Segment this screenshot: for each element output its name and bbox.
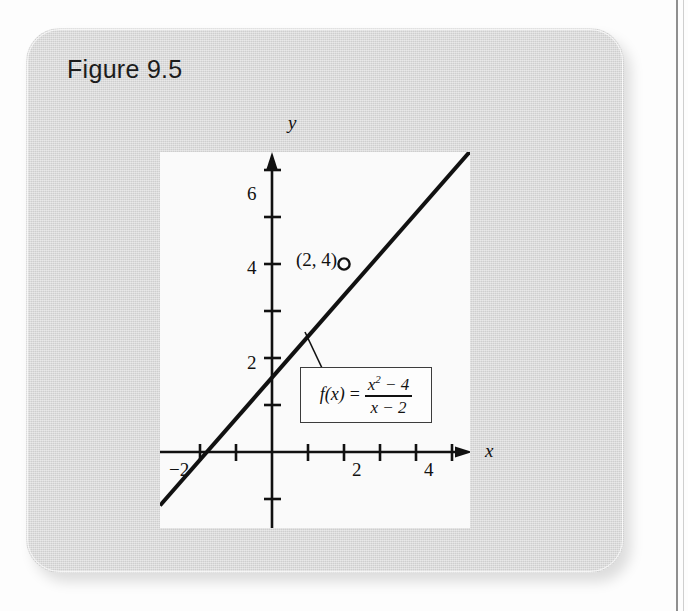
fraction-bar [365,395,413,396]
formula-expression: f(x) = x2 − 4 x − 2 [320,374,413,417]
numerator-rest: − 4 [381,374,409,393]
page-edge-rule [676,0,678,611]
y-tick-label-4: 4 [247,257,257,279]
x-tick-label-minus-2: −2 [169,459,189,481]
formula-equals-sign: = [350,384,360,405]
x-axis-label: x [485,440,493,462]
scanned-page: Figure 9.5 [0,0,688,611]
formula-numerator: x2 − 4 [365,374,413,394]
callout-leader-line [305,332,322,368]
discontinuity-point-label: (2, 4) [296,249,337,271]
page-edge-rule-secondary [683,0,684,611]
formula-left-hand-side: f(x) [320,384,345,405]
formula-callout-box: f(x) = x2 − 4 x − 2 [300,367,432,423]
x-tick-label-2: 2 [352,459,362,481]
y-axis [267,152,278,528]
x-tick-label-4: 4 [424,459,434,481]
open-circle-marker [338,258,349,269]
formula-fraction: x2 − 4 x − 2 [365,374,413,417]
y-tick-label-2: 2 [247,352,257,374]
y-tick-label-6: 6 [247,183,257,205]
formula-denominator: x − 2 [368,399,410,417]
y-axis-label: y [288,112,296,134]
figure-title: Figure 9.5 [67,55,183,84]
